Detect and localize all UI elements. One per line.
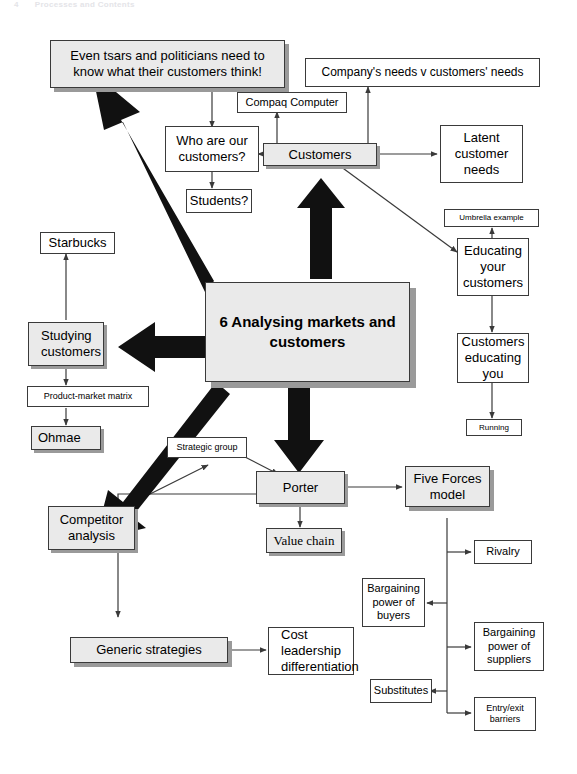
node-substitutes[interactable]: Substitutes [370,679,432,703]
node-competitor-analysis[interactable]: Competitor analysis [48,506,135,550]
node-bps-line2: power of [480,640,539,653]
node-ee-line1: Entry/exit [483,703,527,714]
node-customers-educating-you[interactable]: Customers educating you [457,333,529,383]
node-bpb-line2: power of [364,596,423,609]
node-tsars[interactable]: Even tsars and politicians need to know … [50,40,285,88]
node-ff-line2: model [411,487,485,503]
node-generic-label: Generic strategies [93,642,205,658]
node-studying-customers[interactable]: Studying customers [28,322,104,366]
node-product-market-matrix[interactable]: Product-market matrix [27,386,149,407]
node-compaq-label: Compaq Computer [243,96,342,109]
node-cedu-line3: you [459,366,528,382]
node-five-forces-model[interactable]: Five Forces model [405,466,490,507]
diagram-page: 4Processes and Contents [0,0,577,774]
node-students-label: Students? [187,193,252,209]
node-customers[interactable]: Customers [263,143,377,166]
node-bargaining-power-suppliers[interactable]: Bargaining power of suppliers [474,622,544,671]
node-study-line2: customers [35,344,104,360]
node-running-label: Running [476,423,512,433]
hub-line1: 6 Analysing [219,313,303,330]
node-who-are-our-customers[interactable]: Who are our customers? [165,126,259,172]
node-rivalry[interactable]: Rivalry [474,540,532,564]
node-pmm-label: Product-market matrix [41,391,136,402]
node-tsars-line1: Even tsars and politicians need to [67,48,267,64]
node-ohmae[interactable]: Ohmae [31,426,101,450]
node-who-line2: customers? [173,149,251,165]
node-entry-exit-barriers[interactable]: Entry/exit barriers [474,697,536,731]
node-strategic-group[interactable]: Strategic group [167,437,247,458]
node-bpb-line1: Bargaining [364,582,423,595]
node-comp-line1: Competitor [57,512,127,528]
node-comp-line2: analysis [57,528,127,544]
node-starbucks[interactable]: Starbucks [40,232,115,254]
node-umbrella-example[interactable]: Umbrella example [444,209,539,227]
node-bpb-line3: buyers [364,609,423,622]
node-students[interactable]: Students? [186,189,252,213]
node-porter-label: Porter [280,480,321,496]
node-bps-line3: suppliers [480,653,539,666]
node-starbucks-label: Starbucks [46,235,110,251]
node-compaq-computer[interactable]: Compaq Computer [237,92,347,113]
node-company-needs-label: Company's needs v customers' needs [318,65,526,80]
node-latent-line2: customer [452,146,511,162]
node-edu-line2: your [460,259,526,275]
node-value-chain-label: Value chain [270,533,337,549]
hub-line3: customers [270,333,346,350]
node-substitutes-label: Substitutes [371,684,431,697]
node-latent-customer-needs[interactable]: Latent customer needs [440,125,523,183]
node-cedu-line1: Customers [459,334,528,350]
node-cost-line1: Cost leadership [275,627,362,659]
node-umbrella-label: Umbrella example [456,213,526,223]
node-study-line1: Studying [35,328,104,344]
node-strategic-group-label: Strategic group [173,442,240,453]
node-ff-line1: Five Forces [411,471,485,487]
node-cost-line2: differentiation [275,659,362,675]
node-customers-label: Customers [286,147,355,163]
node-latent-line1: Latent [452,130,511,146]
node-edu-line1: Educating [460,243,526,259]
node-ohmae-label: Ohmae [32,430,84,446]
node-running[interactable]: Running [466,419,522,436]
node-company-needs[interactable]: Company's needs v customers' needs [305,58,540,87]
node-value-chain[interactable]: Value chain [266,528,342,553]
node-tsars-line2: know what their customers think! [67,64,267,80]
node-porter[interactable]: Porter [256,471,345,504]
node-ee-line2: barriers [483,714,527,725]
node-educating-your-customers[interactable]: Educating your customers [457,238,529,296]
node-cost-leadership-differentiation[interactable]: Cost leadership differentiation [268,627,354,675]
node-latent-line3: needs [452,162,511,178]
node-who-line1: Who are our [173,133,251,149]
node-edu-line3: customers [460,275,526,291]
node-rivalry-label: Rivalry [483,545,523,558]
node-hub-analysing-markets-and-customers[interactable]: 6 Analysing markets and customers [205,282,410,382]
node-generic-strategies[interactable]: Generic strategies [70,637,228,663]
node-cedu-line2: educating [459,350,528,366]
node-bps-line1: Bargaining [480,626,539,639]
hub-line2: markets and [307,313,395,330]
node-bargaining-power-buyers[interactable]: Bargaining power of buyers [362,578,425,627]
